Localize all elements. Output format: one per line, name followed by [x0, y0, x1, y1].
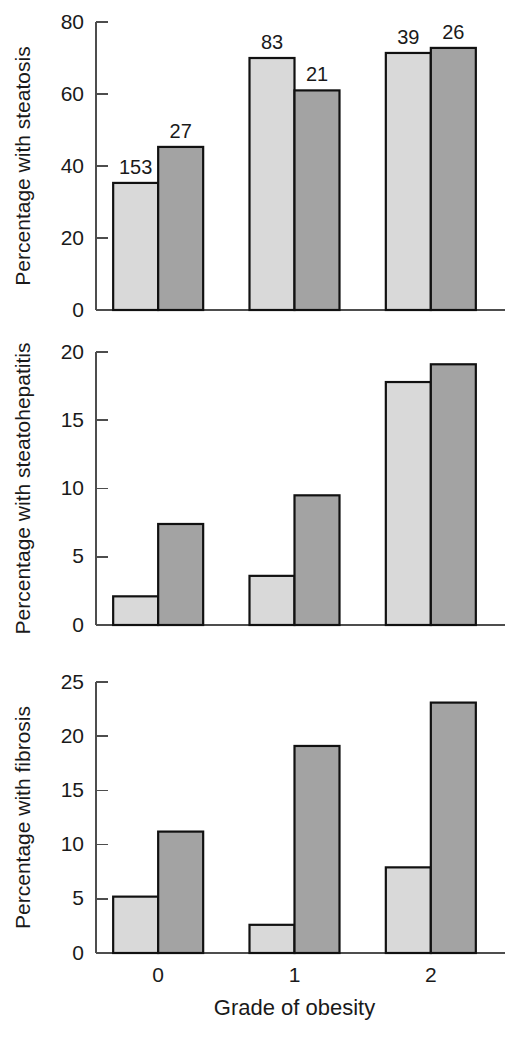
bar-value-label: 39 [397, 26, 419, 48]
y-axis-tick-label: 10 [61, 832, 84, 855]
x-axis-title: Grade of obesity [214, 995, 375, 1020]
y-axis-title: Percentage with steatosis [11, 46, 34, 285]
plot-area: 0510152025012Percentage with fibrosisGra… [0, 648, 515, 1038]
bar-1-series-2-dark [295, 90, 340, 310]
bar-value-label: 153 [119, 156, 152, 178]
y-axis-tick-label: 20 [61, 226, 84, 249]
y-axis-tick-label: 15 [61, 778, 84, 801]
bar-2-series-1-light [386, 867, 431, 953]
bar-2-series-2-dark [431, 364, 476, 625]
y-axis-title: Percentage with steatohepatitis [11, 343, 34, 635]
bar-value-label: 26 [442, 21, 464, 43]
y-axis-tick-label: 0 [72, 298, 84, 318]
chart-panel-fibrosis: 0510152025012Percentage with fibrosisGra… [0, 648, 515, 1038]
bar-value-label: 83 [261, 31, 283, 53]
y-axis-tick-label: 20 [61, 724, 84, 747]
y-axis-tick-label: 15 [61, 408, 84, 431]
y-axis-tick-label: 25 [61, 670, 84, 693]
bar-2-series-2-dark [431, 48, 476, 310]
figure-container: 0204060801532783213926Percentage with st… [0, 0, 515, 1038]
bar-0-series-1-light [113, 897, 158, 953]
bar-0-series-2-dark [158, 524, 203, 625]
bar-0-series-1-light [113, 183, 158, 310]
bar-1-series-2-dark [295, 746, 340, 953]
bar-2-series-2-dark [431, 703, 476, 953]
y-axis-tick-label: 40 [61, 154, 84, 177]
y-axis-tick-label: 80 [61, 10, 84, 33]
plot-area: 05101520Percentage with steatohepatitis [0, 318, 515, 648]
bar-2-series-1-light [386, 382, 431, 625]
chart-panel-steatosis: 0204060801532783213926Percentage with st… [0, 0, 515, 318]
y-axis-tick-label: 20 [61, 340, 84, 363]
y-axis-title: Percentage with fibrosis [11, 706, 34, 929]
x-axis-category-label: 1 [289, 963, 301, 986]
bar-0-series-2-dark [158, 147, 203, 310]
bar-0-series-2-dark [158, 832, 203, 953]
y-axis-tick-label: 0 [72, 941, 84, 964]
y-axis-tick-label: 5 [72, 886, 84, 909]
y-axis-tick-label: 10 [61, 476, 84, 499]
y-axis-tick-label: 5 [72, 544, 84, 567]
plot-area: 0204060801532783213926Percentage with st… [0, 0, 515, 318]
bar-value-label: 27 [170, 120, 192, 142]
bar-1-series-2-dark [295, 495, 340, 625]
y-axis-tick-label: 60 [61, 82, 84, 105]
bar-1-series-1-light [250, 58, 295, 310]
x-axis-category-label: 2 [425, 963, 437, 986]
y-axis-tick-label: 0 [72, 613, 84, 636]
bar-1-series-1-light [250, 925, 295, 953]
x-axis-category-label: 0 [152, 963, 164, 986]
bar-value-label: 21 [306, 63, 328, 85]
bar-0-series-1-light [113, 596, 158, 625]
bar-2-series-1-light [386, 53, 431, 310]
bar-1-series-1-light [250, 576, 295, 625]
chart-panel-steatohepatitis: 05101520Percentage with steatohepatitis [0, 318, 515, 648]
